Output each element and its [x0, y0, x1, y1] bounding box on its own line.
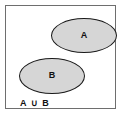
- universal-set-box: A B A ∪ B: [5, 5, 116, 109]
- venn-diagram-figure: A B A ∪ B: [0, 0, 123, 116]
- set-b-label: B: [45, 71, 59, 80]
- set-a-label: A: [77, 31, 91, 40]
- union-caption: A ∪ B: [20, 99, 50, 108]
